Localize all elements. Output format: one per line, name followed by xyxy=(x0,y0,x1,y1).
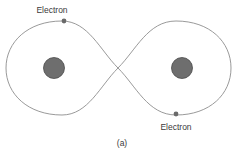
bottom-electron-label: Electron xyxy=(160,122,191,132)
bottom-electron-dot xyxy=(174,112,179,117)
top-electron-label: Electron xyxy=(36,5,67,15)
figure-eight-orbit xyxy=(6,21,231,115)
figure-caption: (a) xyxy=(117,138,128,148)
figure-eight-orbital-diagram: Electron Electron (a) xyxy=(0,0,248,155)
right-nucleus xyxy=(172,58,193,79)
left-nucleus xyxy=(44,58,65,79)
top-electron-dot xyxy=(62,19,67,24)
